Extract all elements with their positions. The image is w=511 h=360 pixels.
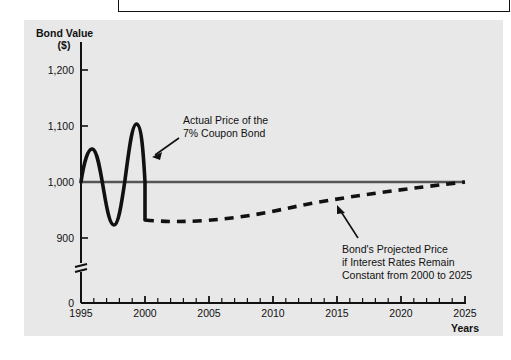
y-axis-break-mark-lower (75, 269, 87, 272)
x-tick-label-2015: 2015 (325, 307, 349, 319)
y-tick-label-1000: 1,000 (48, 176, 74, 188)
x-tick-label-2000: 2000 (133, 307, 157, 319)
y-axis-break-mark-upper (75, 264, 87, 267)
y-tick-label-1100: 1,100 (48, 120, 74, 132)
actual-price-arrow-line (155, 138, 179, 155)
projected-price-arrow-line (340, 210, 358, 238)
x-tick-label-2020: 2020 (389, 307, 413, 319)
projected-price-annotation-line2: if Interest Rates Remain (342, 256, 455, 268)
actual-price-annotation-line1: Actual Price of the (183, 114, 268, 126)
series-actual-price-line (81, 124, 145, 225)
projected-price-annotation-line3: Constant from 2000 to 2025 (342, 269, 472, 281)
x-major-tick-group: 1995 2000 2005 2010 2015 2020 2025 (69, 296, 477, 319)
x-tick-label-1995: 1995 (69, 307, 93, 319)
chart-figure-panel: Bond Value ($) 1,200 1,100 1,000 900 0 (24, 20, 503, 336)
projected-price-arrowhead-icon (337, 205, 345, 214)
projected-price-annotation-line1: Bond's Projected Price (342, 243, 448, 255)
projected-price-annotation: Bond's Projected Price if Interest Rates… (337, 205, 472, 281)
x-tick-label-2025: 2025 (453, 307, 477, 319)
y-axis-title-line2: ($) (58, 39, 71, 51)
actual-price-annotation-line2: 7% Coupon Bond (183, 127, 265, 139)
y-axis-title-line1: Bond Value (36, 27, 93, 39)
x-tick-label-2005: 2005 (197, 307, 221, 319)
x-axis-title: Years (451, 322, 479, 334)
screenshot-page: Bond Value ($) 1,200 1,100 1,000 900 0 (0, 0, 511, 360)
cropped-top-box (118, 0, 510, 12)
y-tick-label-1200: 1,200 (48, 64, 74, 76)
series-projected-price-line (145, 182, 465, 222)
actual-price-annotation: Actual Price of the 7% Coupon Bond (152, 114, 268, 160)
x-tick-label-2010: 2010 (261, 307, 285, 319)
y-tick-label-900: 900 (56, 232, 74, 244)
bond-value-line-chart: Bond Value ($) 1,200 1,100 1,000 900 0 (24, 20, 503, 336)
